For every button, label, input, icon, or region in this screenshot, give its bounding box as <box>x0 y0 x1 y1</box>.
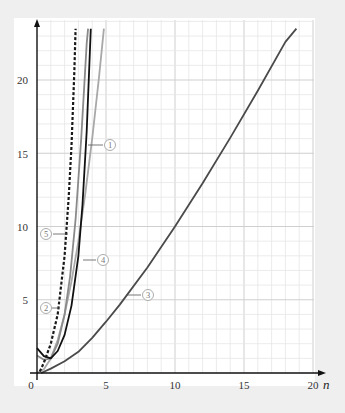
x-tick-10: 10 <box>170 379 182 391</box>
x-tick-5: 5 <box>103 379 109 391</box>
x-axis-label: n <box>323 377 330 392</box>
curve-label-2: 2 <box>44 303 48 313</box>
x-axis-arrow-icon <box>318 370 326 376</box>
curve-label-1: 1 <box>108 140 112 150</box>
origin-label: 0 <box>28 379 34 391</box>
curve-label-3: 3 <box>146 290 150 300</box>
plot-background <box>14 18 315 386</box>
y-tick-15: 15 <box>17 148 29 160</box>
growth-rate-chart: 0 5 10 15 20 n 5 10 15 20 12345 <box>0 0 345 413</box>
y-tick-5: 5 <box>23 294 29 306</box>
curve-label-5: 5 <box>44 229 48 239</box>
y-tick-20: 20 <box>17 74 29 86</box>
y-tick-10: 10 <box>17 221 29 233</box>
x-tick-20: 20 <box>308 379 320 391</box>
chart-container: 0 5 10 15 20 n 5 10 15 20 12345 <box>0 0 345 413</box>
x-tick-15: 15 <box>239 379 251 391</box>
